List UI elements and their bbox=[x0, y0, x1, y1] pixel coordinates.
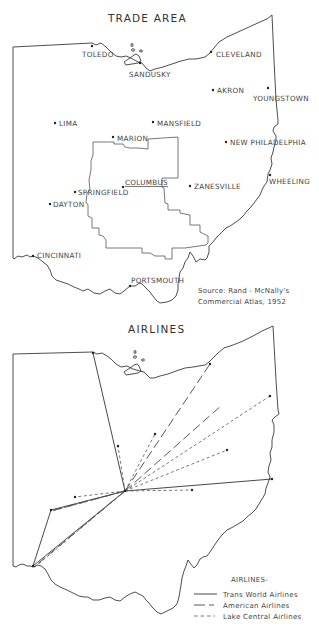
city-label-columbus: COLUMBUS bbox=[125, 178, 168, 187]
city-marker-mansfield bbox=[152, 121, 154, 123]
island-c bbox=[142, 359, 145, 361]
trade-area-map: TRADE AREA TOLEDOSANDUSKYCLEVELANDAKRONY… bbox=[13, 12, 310, 306]
city-label-marion: MARION bbox=[117, 134, 148, 143]
city-label-cincinnati: CINCINNATI bbox=[37, 251, 81, 260]
city-label-youngstown: YOUNGSTOWN bbox=[252, 94, 309, 103]
route-aa-6 bbox=[125, 405, 222, 491]
island-2 bbox=[132, 49, 135, 51]
city-label-toledo: TOLEDO bbox=[81, 50, 114, 59]
city-label-mansfield: MANSFIELD bbox=[157, 119, 201, 128]
trade-area-title: TRADE AREA bbox=[107, 12, 187, 24]
airport-marker-0 bbox=[92, 352, 94, 354]
city-marker-toledo bbox=[91, 45, 93, 47]
route-lc-14 bbox=[75, 491, 125, 497]
airport-marker-5 bbox=[226, 449, 228, 451]
city-label-zanesville: ZANESVILLE bbox=[194, 182, 241, 191]
route-lc-12 bbox=[118, 446, 125, 491]
city-label-new-philadelphia: NEW PHILADELPHIA bbox=[230, 138, 306, 147]
legend-title: AIRLINES- bbox=[231, 576, 268, 584]
island-3 bbox=[140, 50, 143, 52]
airlines-map: AIRLINES AIRLINES- Trans World Airlines … bbox=[13, 323, 301, 621]
city-label-akron: AKRON bbox=[217, 86, 244, 95]
trade-city-layer: TOLEDOSANDUSKYCLEVELANDAKRONYOUNGSTOWNLI… bbox=[32, 45, 310, 287]
route-lc-11 bbox=[125, 434, 155, 491]
legend-label-aa: American Airlines bbox=[223, 602, 290, 610]
airport-marker-1 bbox=[209, 363, 211, 365]
airport-marker-6 bbox=[271, 478, 273, 480]
city-label-lima: LIMA bbox=[59, 119, 77, 128]
city-marker-wheeling bbox=[269, 174, 271, 176]
route-twa-1 bbox=[125, 479, 272, 491]
airport-marker-3 bbox=[154, 433, 156, 435]
city-marker-lima bbox=[54, 122, 56, 124]
city-marker-new-philadelphia bbox=[225, 141, 227, 143]
city-marker-cleveland bbox=[210, 51, 212, 53]
source-note-line1: Source: Rand - McNally's bbox=[198, 287, 289, 295]
island-b bbox=[134, 356, 137, 358]
city-marker-springfield bbox=[74, 191, 76, 193]
legend-label-lc: Lake Central Airlines bbox=[223, 613, 301, 621]
legend-label-twa: Trans World Airlines bbox=[222, 591, 298, 599]
island-a bbox=[134, 351, 136, 354]
airport-marker-10 bbox=[50, 509, 52, 511]
route-twa-0 bbox=[93, 353, 125, 491]
airlines-title: AIRLINES bbox=[128, 323, 185, 335]
airport-marker-11 bbox=[32, 565, 34, 567]
airport-marker-2 bbox=[269, 395, 271, 397]
airport-marker-8 bbox=[191, 489, 193, 491]
city-label-wheeling: WHEELING bbox=[269, 177, 310, 186]
route-lc-10 bbox=[125, 450, 227, 491]
airline-routes bbox=[33, 353, 272, 567]
city-marker-dayton bbox=[49, 203, 51, 205]
city-label-sandusky: SANDUSKY bbox=[129, 70, 171, 79]
city-marker-youngstown bbox=[267, 87, 269, 89]
city-marker-cincinnati bbox=[32, 255, 34, 257]
sandusky-bay bbox=[124, 54, 141, 65]
airlines-legend: AIRLINES- Trans World Airlines American … bbox=[194, 576, 301, 621]
city-label-springfield: SPRINGFIELD bbox=[78, 188, 129, 197]
ohio-outline-airlines bbox=[13, 326, 279, 614]
trade-area-boundary bbox=[86, 137, 208, 259]
city-marker-marion bbox=[112, 136, 114, 138]
route-lc-9 bbox=[125, 396, 270, 491]
city-marker-zanesville bbox=[189, 185, 191, 187]
city-label-portsmouth: PORTSMOUTH bbox=[131, 276, 184, 285]
city-marker-portsmouth bbox=[129, 285, 131, 287]
route-lc-15 bbox=[52, 491, 125, 511]
route-twa-4 bbox=[33, 510, 51, 566]
figure: TRADE AREA TOLEDOSANDUSKYCLEVELANDAKRONY… bbox=[0, 0, 319, 631]
city-label-cleveland: CLEVELAND bbox=[216, 50, 262, 59]
airport-marker-4 bbox=[117, 445, 119, 447]
airport-marker-7 bbox=[124, 490, 126, 492]
city-label-dayton: DAYTON bbox=[53, 200, 84, 209]
city-marker-akron bbox=[212, 89, 214, 91]
city-marker-sandusky bbox=[139, 62, 141, 64]
source-note-line2: Commercial Atlas, 1952 bbox=[198, 298, 286, 306]
island-1 bbox=[131, 43, 133, 46]
airline-stops bbox=[32, 352, 273, 567]
airport-marker-9 bbox=[74, 496, 76, 498]
